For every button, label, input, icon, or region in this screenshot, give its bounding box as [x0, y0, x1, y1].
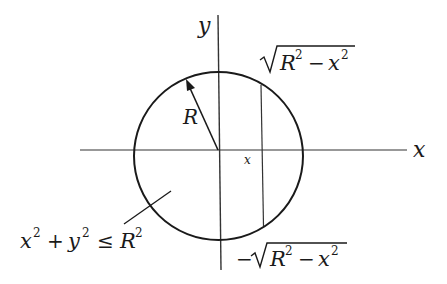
radius-arrowhead-icon	[186, 79, 195, 91]
region-exp-y: 2	[82, 226, 90, 240]
lower-r: R	[269, 247, 286, 271]
lower-minus: −	[298, 247, 315, 271]
lower-exp2: 2	[331, 244, 339, 258]
upper-minus: −	[308, 51, 325, 75]
y-axis-label: y	[197, 13, 211, 38]
lower-bound-label: − R 2 − x 2	[236, 243, 347, 271]
region-plus: +	[47, 229, 64, 253]
region-exp-r: 2	[135, 226, 143, 240]
upper-r: R	[279, 51, 296, 75]
upper-exp1: 2	[295, 48, 303, 62]
x-axis-label: x	[413, 137, 426, 162]
disk-diagram: y x R x R 2 − x 2 − R 2 − x 2 x 2 + y 2 …	[0, 0, 447, 284]
radius-label: R	[182, 105, 198, 129]
region-label: x 2 + y 2 ≤ R 2	[20, 226, 143, 253]
lower-exp1: 2	[285, 244, 293, 258]
lower-x: x	[318, 247, 330, 271]
region-x: x	[20, 229, 32, 253]
upper-x: x	[328, 51, 340, 75]
region-r: R	[119, 229, 136, 253]
region-y: y	[67, 229, 81, 253]
slice-position-label: x	[244, 153, 251, 167]
upper-exp2: 2	[341, 48, 349, 62]
region-exp-x: 2	[33, 226, 41, 240]
lower-sign: −	[236, 247, 253, 271]
y-axis	[218, 15, 221, 270]
vertical-slice	[261, 85, 264, 226]
region-leq: ≤	[97, 229, 114, 253]
upper-bound-label: R 2 − x 2	[260, 46, 355, 75]
